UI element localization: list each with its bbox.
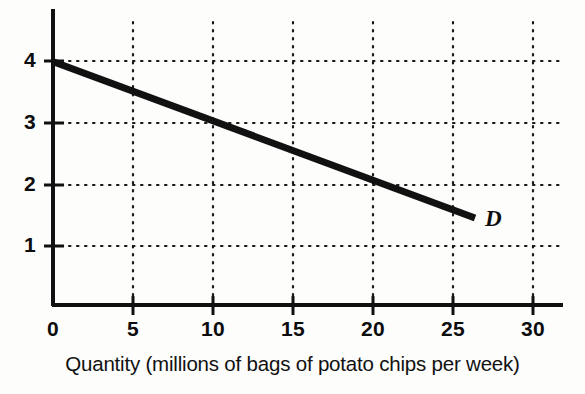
x-tick-label-0: 0	[33, 318, 73, 339]
x-tick-label-25: 25	[433, 318, 473, 339]
x-tick-label-20: 20	[353, 318, 393, 339]
x-tick-label-10: 10	[193, 318, 233, 339]
y-tick-label-1: 1	[10, 234, 36, 255]
demand-curve-line	[54, 62, 475, 218]
series-label-demand: D	[485, 207, 502, 230]
x-tick-label-15: 15	[273, 318, 313, 339]
y-tick-label-2: 2	[10, 173, 36, 194]
y-tick-label-4: 4	[10, 49, 36, 70]
x-axis-title: Quantity (millions of bags of potato chi…	[0, 352, 585, 376]
y-tick-label-3: 3	[10, 111, 36, 132]
x-tick-label-5: 5	[113, 318, 153, 339]
x-tick-label-30: 30	[513, 318, 553, 339]
demand-curve-chart: 4 3 2 1 0 5 10 15 20 25 30 D Quantity (m…	[0, 0, 585, 394]
